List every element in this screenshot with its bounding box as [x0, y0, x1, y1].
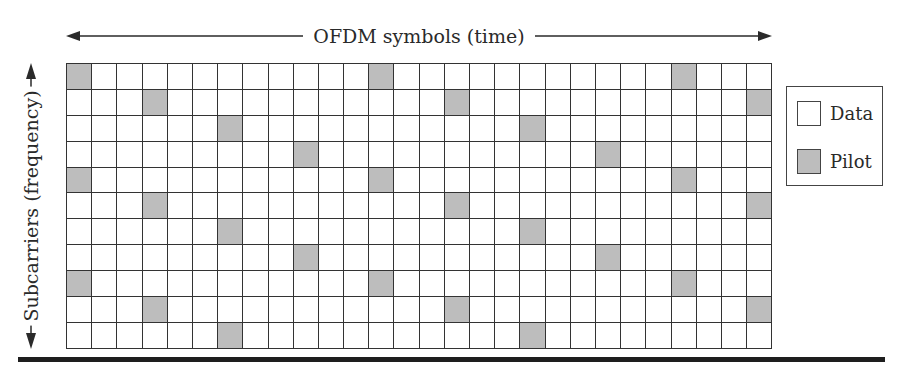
data-cell — [394, 142, 419, 168]
data-cell — [445, 64, 470, 90]
data-cell — [571, 116, 596, 142]
data-cell — [369, 297, 394, 323]
data-cell — [420, 64, 445, 90]
data-cell — [394, 297, 419, 323]
data-cell — [546, 193, 571, 219]
data-cell — [520, 297, 545, 323]
data-cell — [344, 297, 369, 323]
data-cell — [470, 142, 495, 168]
data-cell — [495, 168, 520, 194]
data-cell — [294, 64, 319, 90]
data-cell — [646, 64, 671, 90]
data-cell — [168, 193, 193, 219]
data-cell — [722, 219, 747, 245]
data-cell — [747, 245, 772, 271]
data-cell — [495, 297, 520, 323]
data-cell — [92, 219, 117, 245]
data-cell — [697, 116, 722, 142]
data-cell — [646, 297, 671, 323]
data-cell — [369, 90, 394, 116]
data-cell — [168, 323, 193, 349]
data-cell — [92, 116, 117, 142]
data-cell — [646, 116, 671, 142]
pilot-cell — [67, 64, 92, 90]
pilot-cell — [747, 193, 772, 219]
data-cell — [193, 245, 218, 271]
data-cell — [596, 64, 621, 90]
data-cell — [621, 116, 646, 142]
data-cell — [344, 219, 369, 245]
data-cell — [420, 116, 445, 142]
data-cell — [269, 168, 294, 194]
data-cell — [445, 116, 470, 142]
data-cell — [369, 142, 394, 168]
data-cell — [243, 116, 268, 142]
data-cell — [646, 193, 671, 219]
data-cell — [92, 142, 117, 168]
data-cell — [546, 297, 571, 323]
data-cell — [319, 323, 344, 349]
data-cell — [394, 219, 419, 245]
data-cell — [294, 323, 319, 349]
pilot-cell — [67, 271, 92, 297]
data-cell — [344, 90, 369, 116]
data-cell — [67, 193, 92, 219]
time-axis-label-wrap: OFDM symbols (time) — [66, 24, 772, 48]
data-cell — [747, 64, 772, 90]
legend-item-pilot: Pilot — [797, 149, 872, 174]
data-cell — [520, 64, 545, 90]
data-cell — [92, 323, 117, 349]
data-cell — [168, 90, 193, 116]
pilot-cell — [143, 193, 168, 219]
data-cell — [722, 116, 747, 142]
data-cell — [722, 271, 747, 297]
data-cell — [67, 245, 92, 271]
data-cell — [269, 219, 294, 245]
data-cell — [193, 193, 218, 219]
data-cell — [143, 245, 168, 271]
data-cell — [143, 64, 168, 90]
data-cell — [596, 219, 621, 245]
pilot-cell — [218, 116, 243, 142]
data-cell — [344, 64, 369, 90]
data-cell — [571, 271, 596, 297]
data-cell — [596, 193, 621, 219]
data-cell — [67, 219, 92, 245]
data-cell — [571, 64, 596, 90]
data-cell — [294, 271, 319, 297]
ofdm-resource-grid — [66, 63, 772, 349]
data-cell — [243, 297, 268, 323]
data-cell — [420, 297, 445, 323]
data-cell — [269, 245, 294, 271]
data-cell — [470, 64, 495, 90]
data-cell — [344, 168, 369, 194]
data-cell — [470, 271, 495, 297]
data-cell — [67, 90, 92, 116]
data-cell — [369, 323, 394, 349]
data-cell — [344, 142, 369, 168]
data-cell — [117, 297, 142, 323]
data-cell — [621, 64, 646, 90]
data-cell — [319, 271, 344, 297]
data-cell — [571, 90, 596, 116]
pilot-cell — [294, 245, 319, 271]
data-cell — [672, 219, 697, 245]
data-cell — [697, 142, 722, 168]
data-cell — [319, 245, 344, 271]
data-cell — [344, 245, 369, 271]
data-cell — [596, 297, 621, 323]
data-cell — [369, 116, 394, 142]
data-cell — [420, 245, 445, 271]
data-cell — [294, 168, 319, 194]
data-cell — [369, 219, 394, 245]
bottom-rule — [18, 357, 885, 362]
data-cell — [67, 297, 92, 323]
data-cell — [646, 245, 671, 271]
data-cell — [243, 271, 268, 297]
data-cell — [470, 193, 495, 219]
data-cell — [394, 193, 419, 219]
data-cell — [193, 323, 218, 349]
data-cell — [117, 90, 142, 116]
data-cell — [495, 271, 520, 297]
data-cell — [722, 142, 747, 168]
